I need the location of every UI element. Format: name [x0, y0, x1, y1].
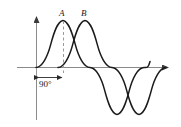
waveform-figure: A B 90° [0, 0, 181, 127]
wave-b-label: B [81, 9, 87, 18]
phase-difference-label: 90° [39, 80, 52, 89]
wave-a-label: A [59, 9, 65, 18]
waveform-diagram [0, 0, 181, 127]
